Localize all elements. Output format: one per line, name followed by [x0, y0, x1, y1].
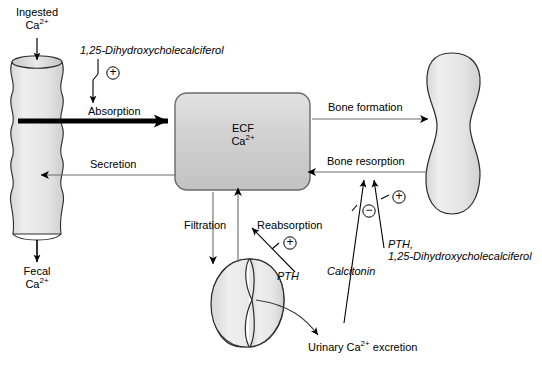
calcitonin-label: Calcitonin	[327, 265, 375, 278]
bone-shape	[426, 53, 480, 214]
intestine-tube	[10, 56, 63, 240]
plus-sign-reabsorption: +	[280, 236, 300, 249]
secretion-label: Secretion	[90, 158, 136, 171]
bone-resorption-label: Bone resorption	[327, 155, 405, 168]
plus-sign-resorption: +	[389, 190, 409, 203]
bone-formation-label: Bone formation	[328, 101, 403, 114]
reabsorption-label: Reabsorption	[257, 219, 322, 232]
plus-sign-absorption: +	[103, 66, 123, 79]
vitamin-d-top-label: 1,25-Dihydroxycholecalciferol	[80, 44, 224, 57]
fecal-calcium-label: Fecal Ca2+	[6, 265, 68, 291]
absorption-label: Absorption	[88, 105, 141, 118]
calcitonin-modulator	[344, 180, 375, 323]
urinary-excretion-label: Urinary Ca2+ excretion	[308, 341, 417, 354]
ecf-label: ECF Ca2+	[222, 122, 264, 148]
kidney-shape	[211, 259, 284, 347]
filtration-label: Filtration	[184, 219, 226, 232]
pth-kidney-label: PTH	[277, 270, 299, 283]
pth-vitd-bone-label: PTH, 1,25-Dihydroxycholecalciferol	[388, 238, 532, 262]
minus-sign-calcitonin: −	[359, 204, 379, 217]
ingested-calcium-label: Ingested Ca2+	[6, 6, 68, 32]
calcium-homeostasis-diagram: Ingested Ca2+ Fecal Ca2+ 1,25-Dihydroxyc…	[0, 0, 542, 367]
